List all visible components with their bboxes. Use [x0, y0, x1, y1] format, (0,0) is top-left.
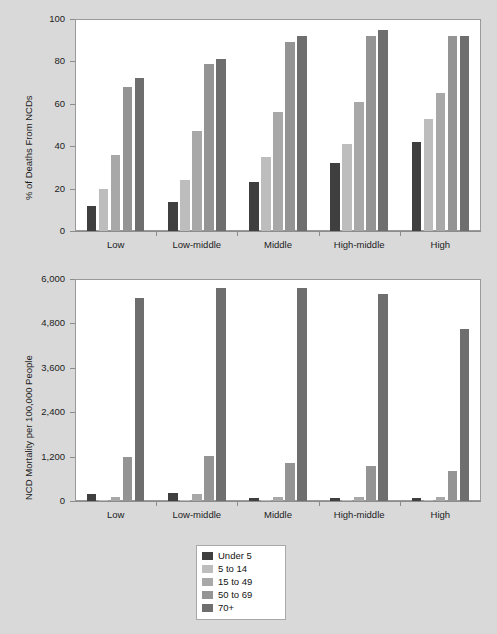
y-tick-label: 20	[0, 184, 65, 194]
bar	[168, 202, 178, 231]
bar	[342, 500, 352, 501]
legend-item: 50 to 69	[202, 589, 278, 601]
x-tick-mark	[319, 501, 320, 506]
y-tick-label: 60	[0, 99, 65, 109]
legend-swatch-icon	[202, 604, 213, 612]
bar	[424, 119, 434, 231]
x-category-label: Low	[75, 240, 156, 250]
bar	[111, 155, 121, 231]
x-tick-mark	[400, 501, 401, 506]
bar	[273, 112, 283, 231]
legend-item: 70+	[202, 602, 278, 614]
bar	[378, 30, 388, 231]
bar	[123, 87, 133, 231]
y-tick-label: 2,400	[0, 407, 65, 417]
legend-swatch-icon	[202, 578, 213, 586]
legend-swatch-icon	[202, 565, 213, 573]
legend-item: Under 5	[202, 550, 278, 562]
y-tick-label: 4,800	[0, 319, 65, 329]
bar	[436, 93, 446, 231]
bar	[135, 298, 145, 502]
x-category-label: Low-middle	[156, 510, 237, 520]
bar	[354, 497, 364, 501]
x-tick-mark	[237, 231, 238, 236]
bar	[460, 36, 470, 231]
bar	[378, 294, 388, 501]
bar	[168, 493, 178, 501]
x-category-label: High-middle	[319, 240, 400, 250]
bar	[261, 157, 271, 231]
x-category-label: High-middle	[319, 510, 400, 520]
bar	[285, 42, 295, 231]
bar	[448, 36, 458, 231]
bar	[180, 500, 190, 501]
bar	[330, 163, 340, 231]
bar	[366, 36, 376, 231]
bar	[261, 500, 271, 501]
legend-swatch-icon	[202, 552, 213, 560]
bar	[342, 144, 352, 231]
bar	[204, 64, 214, 231]
legend-item: 15 to 49	[202, 576, 278, 588]
x-category-label: Low	[75, 510, 156, 520]
bar	[123, 457, 133, 501]
bar	[99, 500, 109, 501]
bar	[180, 180, 190, 231]
x-tick-mark	[319, 231, 320, 236]
x-category-label: Middle	[237, 510, 318, 520]
y-tick-label: 100	[0, 14, 65, 24]
y-tick-label: 40	[0, 141, 65, 151]
bar	[192, 494, 202, 501]
bar	[366, 466, 376, 501]
x-category-label: Middle	[237, 240, 318, 250]
y-axis-title-bottom: NCD Mortality per 100,000 People	[24, 355, 34, 500]
y-tick-label: 1,200	[0, 452, 65, 462]
bar	[297, 288, 307, 501]
bar	[135, 78, 145, 231]
x-category-label: Low-middle	[156, 240, 237, 250]
legend-label: Under 5	[218, 551, 252, 561]
y-tick-label: 3,600	[0, 363, 65, 373]
bar	[448, 471, 458, 501]
chart-panel-deaths-percent: % of Deaths From NCDs 020406080100 LowLo…	[0, 0, 497, 270]
bar	[87, 206, 97, 231]
bar	[216, 59, 226, 231]
y-tick-label: 80	[0, 57, 65, 67]
bar	[249, 182, 259, 231]
chart-legend: Under 55 to 1415 to 4950 to 6970+	[196, 545, 286, 620]
y-tick-label: 0	[0, 496, 65, 506]
bar	[285, 463, 295, 501]
x-category-label: High	[400, 510, 481, 520]
x-category-label: High	[400, 240, 481, 250]
bar	[216, 288, 226, 501]
x-axis-line	[75, 501, 481, 502]
bar	[436, 497, 446, 501]
bar	[354, 102, 364, 231]
legend-swatch-icon	[202, 591, 213, 599]
bar	[412, 142, 422, 231]
legend-item: 5 to 14	[202, 563, 278, 575]
legend-label: 5 to 14	[218, 564, 247, 574]
bar	[204, 456, 214, 501]
x-axis-line	[75, 231, 481, 232]
bar	[99, 189, 109, 231]
x-tick-mark	[237, 501, 238, 506]
bar	[192, 131, 202, 231]
bar	[330, 498, 340, 501]
legend-label: 50 to 69	[218, 590, 252, 600]
bar	[111, 497, 121, 501]
bar	[412, 498, 422, 501]
bar	[273, 497, 283, 501]
chart-panel-ncd-mortality: NCD Mortality per 100,000 People 01,2002…	[0, 270, 497, 540]
bar	[460, 329, 470, 501]
bar	[87, 494, 97, 501]
x-tick-mark	[156, 231, 157, 236]
x-tick-mark	[400, 231, 401, 236]
legend-label: 15 to 49	[218, 577, 252, 587]
x-tick-mark	[156, 501, 157, 506]
bar	[424, 500, 434, 501]
chart-figure: % of Deaths From NCDs 020406080100 LowLo…	[0, 0, 497, 634]
y-tick-label: 6,000	[0, 274, 65, 284]
legend-label: 70+	[218, 603, 234, 613]
y-tick-label: 0	[0, 226, 65, 236]
